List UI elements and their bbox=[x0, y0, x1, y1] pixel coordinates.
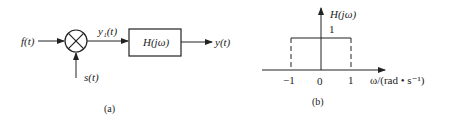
frequency-response-b: H(jω) 1 −1 0 1 ω/(rad • s⁻¹) (b) bbox=[262, 8, 425, 108]
multiplier-icon bbox=[65, 30, 87, 52]
figure-canvas: f(t) s(t) y₁(t) H(jω) y(t) (a) H(jω) 1 −… bbox=[0, 0, 450, 124]
caption-a: (a) bbox=[104, 103, 115, 115]
y-axis-label: H(jω) bbox=[329, 8, 356, 21]
block-diagram-a: f(t) s(t) y₁(t) H(jω) y(t) (a) bbox=[21, 25, 231, 115]
filter-label: H(jω) bbox=[142, 36, 169, 49]
intermediate-label: y₁(t) bbox=[97, 25, 117, 38]
x-tick-0: 0 bbox=[317, 75, 323, 87]
output-label: y(t) bbox=[214, 36, 231, 49]
carrier-label: s(t) bbox=[84, 71, 99, 84]
x-tick-1: 1 bbox=[348, 74, 354, 86]
caption-b: (b) bbox=[312, 96, 324, 108]
input-label: f(t) bbox=[21, 35, 35, 48]
x-axis-label: ω/(rad • s⁻¹) bbox=[370, 74, 425, 87]
amplitude-label: 1 bbox=[329, 23, 335, 35]
x-tick-neg1: −1 bbox=[283, 74, 295, 86]
